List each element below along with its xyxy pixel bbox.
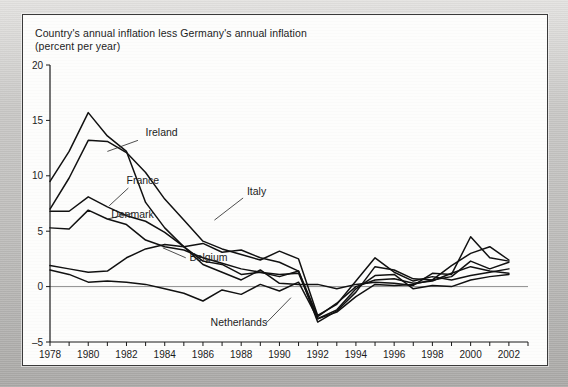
series-line-italy [50,140,509,315]
y-tick-label: 10 [32,170,44,181]
x-tick-label: 1994 [345,349,368,360]
x-tick-label: 1998 [421,349,444,360]
leader-line-netherlands [266,298,291,323]
series-label-italy: Italy [247,185,267,197]
leader-line-france [109,188,128,206]
figure-panel: Country's annual inflation less Germany'… [22,14,548,366]
x-tick-label: 1996 [383,349,406,360]
x-tick-label: 2000 [460,349,483,360]
x-tick-label: 1986 [192,349,215,360]
series-label-netherlands: Netherlands [211,316,268,328]
series-label-belgium: Belgium [190,251,228,263]
line-chart: –505101520197819801982198419861988199019… [23,15,547,365]
x-tick-label: 1982 [115,349,138,360]
y-tick-label: 0 [37,281,43,292]
y-tick-label: –5 [32,337,44,348]
x-tick-label: 1984 [154,349,177,360]
y-tick-label: 15 [32,115,44,126]
y-tick-label: 20 [32,60,44,71]
x-tick-label: 1978 [39,349,62,360]
y-tick-label: 5 [37,226,43,237]
x-tick-label: 1990 [268,349,291,360]
x-tick-label: 2002 [498,349,521,360]
leader-line-italy [214,198,243,220]
series-label-denmark: Denmark [111,208,154,220]
series-label-france: France [126,174,159,186]
x-tick-label: 1988 [230,349,253,360]
series-label-ireland: Ireland [146,126,178,138]
x-tick-label: 1992 [307,349,330,360]
x-tick-label: 1980 [77,349,100,360]
